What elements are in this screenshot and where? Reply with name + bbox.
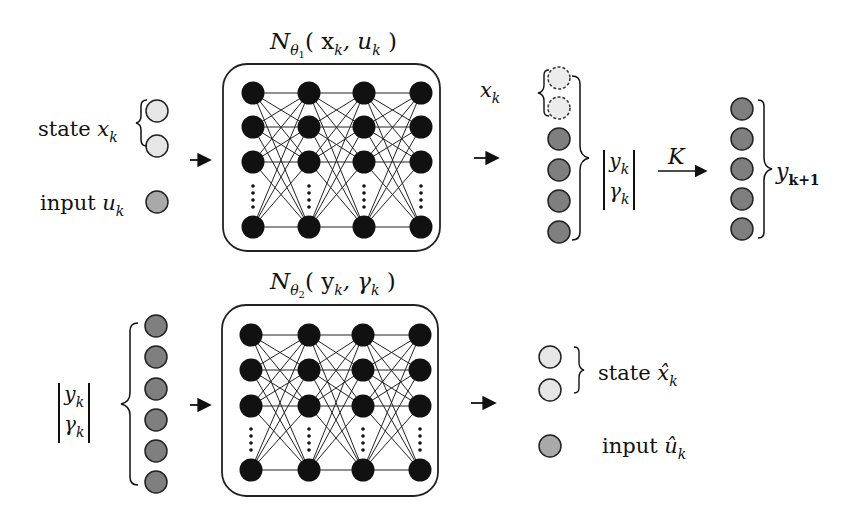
lifted-node bbox=[145, 409, 167, 431]
ellipsis-dot bbox=[251, 205, 255, 209]
output-nodes bbox=[731, 98, 753, 240]
state-label: state xk bbox=[38, 119, 118, 144]
ellipsis-dot bbox=[362, 191, 366, 195]
hidden-neuron bbox=[352, 395, 375, 418]
ellipsis-dot bbox=[307, 191, 311, 195]
bottom-left-brace bbox=[121, 323, 138, 485]
hidden-neuron bbox=[352, 324, 375, 347]
ellipsis-dot bbox=[251, 184, 255, 188]
lifted-node bbox=[145, 471, 167, 493]
ellipsis-dot bbox=[419, 205, 423, 209]
ellipsis-dot bbox=[362, 184, 366, 188]
hidden-neuron bbox=[352, 359, 375, 382]
ellipsis-dot bbox=[307, 448, 311, 452]
ellipsis-dot bbox=[418, 434, 422, 438]
lifted-vector-label: yk γk bbox=[603, 150, 635, 210]
hidden-neuron bbox=[242, 151, 265, 174]
ellipsis-dot bbox=[249, 441, 253, 445]
hidden-neuron bbox=[240, 395, 263, 418]
ellipsis-dot bbox=[249, 448, 253, 452]
reconstructed-input-label: input ûk bbox=[602, 436, 686, 461]
input-label: input uk bbox=[40, 193, 124, 218]
hidden-neuron bbox=[298, 324, 321, 347]
ellipsis-dot bbox=[307, 184, 311, 188]
hidden-neuron bbox=[353, 151, 376, 174]
ellipsis-dot bbox=[362, 205, 366, 209]
state-node bbox=[146, 135, 168, 157]
ellipsis-dot bbox=[362, 198, 366, 202]
ellipsis-dot bbox=[418, 441, 422, 445]
hidden-neuron bbox=[298, 151, 321, 174]
hidden-neuron bbox=[410, 116, 433, 139]
bottom-input-nodes bbox=[145, 315, 167, 493]
output-node bbox=[731, 218, 753, 240]
lifted-node bbox=[145, 315, 167, 337]
hidden-neuron bbox=[298, 395, 321, 418]
hidden-neuron bbox=[410, 82, 433, 105]
diagram-canvas bbox=[0, 0, 867, 518]
ellipsis-dot bbox=[251, 198, 255, 202]
ellipsis-dot bbox=[307, 198, 311, 202]
next-output-label: yk+1 bbox=[776, 161, 820, 187]
output-node bbox=[731, 98, 753, 120]
hidden-neuron bbox=[353, 216, 376, 239]
hidden-neuron bbox=[298, 216, 321, 239]
ellipsis-dot bbox=[418, 427, 422, 431]
output-node bbox=[731, 158, 753, 180]
output-node bbox=[731, 188, 753, 210]
hidden-neuron bbox=[240, 459, 263, 482]
bottom-vector-label: yk γk bbox=[58, 383, 90, 443]
lifted-node bbox=[145, 440, 167, 462]
hidden-neuron bbox=[410, 216, 433, 239]
dashed-state-node bbox=[548, 97, 570, 119]
lifted-node bbox=[145, 378, 167, 400]
lifted-nodes bbox=[548, 67, 570, 243]
network-1-graph bbox=[242, 82, 433, 239]
hidden-neuron bbox=[409, 359, 432, 382]
network-2-title: Nθ2( yk, γk ) bbox=[270, 270, 396, 300]
state-node bbox=[539, 346, 561, 368]
hidden-neuron bbox=[352, 459, 375, 482]
state-hat-brace bbox=[574, 347, 584, 393]
ellipsis-dot bbox=[361, 434, 365, 438]
state-node bbox=[146, 100, 168, 122]
hidden-neuron bbox=[353, 82, 376, 105]
ellipsis-dot bbox=[307, 434, 311, 438]
lifted-right-brace bbox=[572, 76, 589, 240]
ellipsis-dot bbox=[361, 441, 365, 445]
ellipsis-dot bbox=[307, 205, 311, 209]
hidden-neuron bbox=[240, 359, 263, 382]
ellipsis-dot bbox=[361, 427, 365, 431]
ellipsis-dot bbox=[251, 191, 255, 195]
hidden-neuron bbox=[242, 82, 265, 105]
state-node bbox=[539, 379, 561, 401]
ellipsis-dot bbox=[307, 441, 311, 445]
reconstructed-state-label: state x̂k bbox=[598, 363, 678, 388]
hidden-neuron bbox=[298, 116, 321, 139]
output-brace bbox=[758, 100, 772, 238]
lifted-node bbox=[548, 190, 570, 212]
ellipsis-dot bbox=[361, 448, 365, 452]
bottom-output-nodes bbox=[539, 346, 561, 457]
top-input-nodes bbox=[146, 100, 168, 213]
ellipsis-dot bbox=[249, 427, 253, 431]
ellipsis-dot bbox=[249, 434, 253, 438]
dashed-state-node bbox=[548, 67, 570, 89]
hidden-neuron bbox=[242, 116, 265, 139]
ellipsis-dot bbox=[419, 184, 423, 188]
network-2-graph bbox=[240, 324, 432, 482]
lifted-node bbox=[145, 346, 167, 368]
hidden-neuron bbox=[409, 324, 432, 347]
hidden-neuron bbox=[409, 459, 432, 482]
input-node bbox=[539, 435, 561, 457]
hidden-neuron bbox=[298, 82, 321, 105]
ellipsis-dot bbox=[419, 198, 423, 202]
hidden-neuron bbox=[409, 395, 432, 418]
hidden-neuron bbox=[298, 459, 321, 482]
output-node bbox=[731, 128, 753, 150]
hidden-neuron bbox=[242, 216, 265, 239]
ellipsis-dot bbox=[418, 448, 422, 452]
lifted-node bbox=[548, 159, 570, 181]
network-1-title: Nθ1( xk, uk ) bbox=[270, 30, 397, 60]
ellipsis-dot bbox=[307, 427, 311, 431]
